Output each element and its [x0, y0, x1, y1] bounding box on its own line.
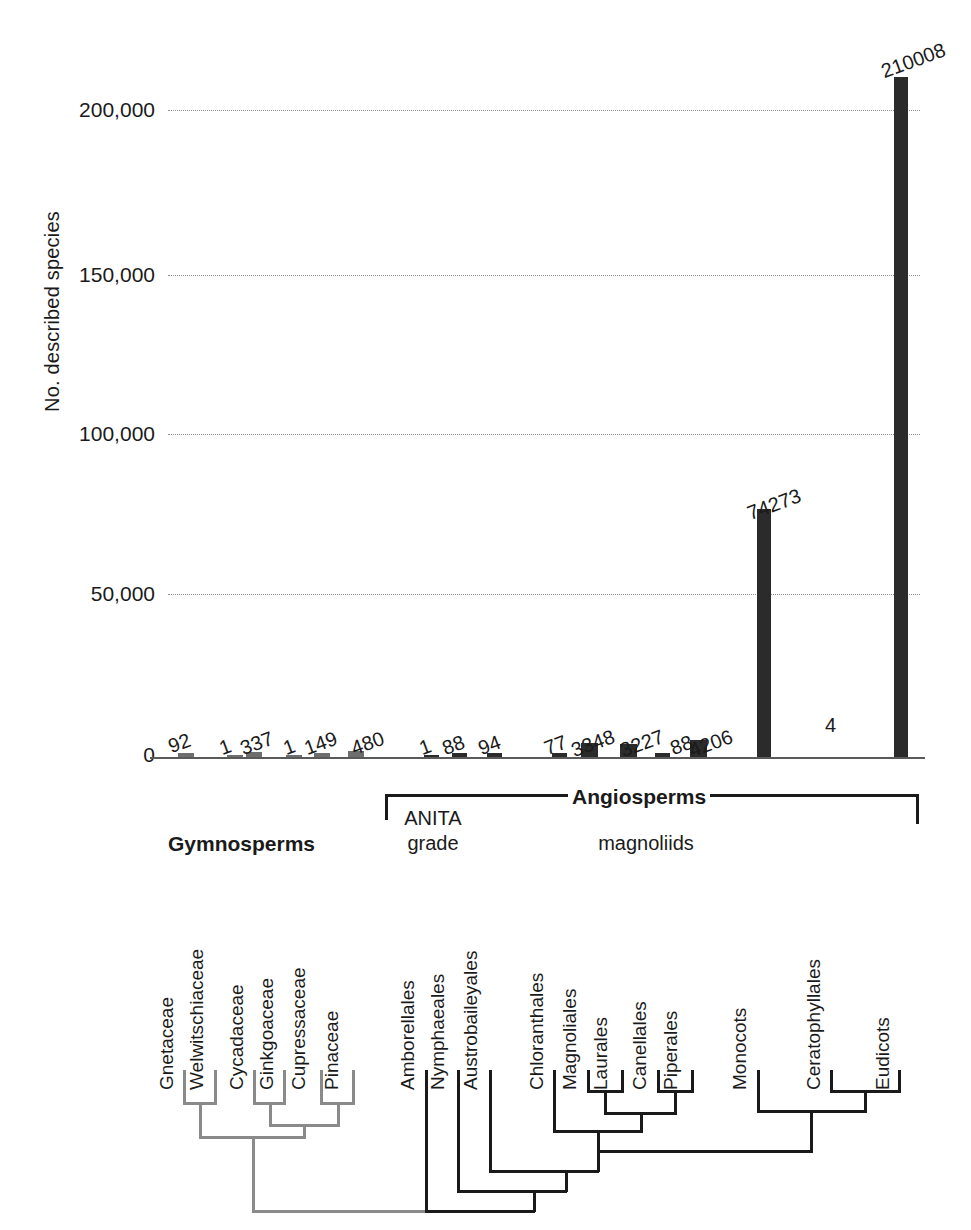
taxon-labels-layer: Gnetaceae Welwitschiaceae Cycadaceae Gin…	[0, 0, 971, 1075]
clade-tip-gnetaceae	[183, 1070, 186, 1104]
clade-tip-ceratophyllales	[830, 1070, 833, 1092]
chart-figure: No. described species 200,000 150,000 10…	[0, 0, 971, 1230]
clade-node-mesangiosperm-1	[457, 1190, 567, 1193]
clade-tip-laurales	[621, 1070, 624, 1092]
clade-stem-gymnosperms	[252, 1136, 255, 1212]
clade-tip-monocots	[757, 1070, 760, 1112]
clade-tip-nymphaeales	[457, 1070, 460, 1192]
clade-tip-pinaceae	[352, 1070, 355, 1104]
clade-stem-mesangiosperms	[565, 1170, 568, 1192]
clade-tip-cycadaceae	[253, 1070, 256, 1104]
clade-stem-cerato-eudicots	[864, 1090, 867, 1112]
clade-tip-amborellales	[425, 1070, 428, 1212]
clade-root-gymnosperm-branch	[252, 1210, 447, 1213]
clade-tip-welwitschiaceae	[214, 1070, 217, 1104]
clade-stem-magnoliales-laurales	[604, 1090, 607, 1114]
cladogram	[0, 1070, 971, 1230]
clade-tip-ginkgoaceae	[283, 1070, 286, 1104]
clade-stem-cycad-ginkgo	[269, 1102, 272, 1126]
clade-tip-magnoliales	[587, 1070, 590, 1092]
clade-root-angiosperms	[425, 1210, 535, 1213]
clade-tip-eudicots	[898, 1070, 901, 1092]
clade-stem-magnoliids	[640, 1112, 643, 1132]
taxon-label-welwitschiaceae: Welwitschiaceae	[186, 949, 208, 1090]
clade-tip-cupressaceae	[320, 1070, 323, 1104]
clade-tip-canellales	[657, 1070, 660, 1092]
clade-node-mesangiosperm-2	[489, 1170, 599, 1173]
clade-tip-austrobaileyales	[489, 1070, 492, 1172]
clade-stem-post-nymphaeales	[533, 1190, 536, 1212]
clade-stem-gnetales	[199, 1102, 202, 1136]
clade-node-mesangiosperms	[597, 1150, 813, 1153]
clade-stem-monocots-cerato-eudicots	[810, 1110, 813, 1152]
clade-tip-piperales	[691, 1070, 694, 1092]
clade-tip-chloranthales	[553, 1070, 556, 1132]
clade-stem-conifers	[337, 1102, 340, 1126]
clade-stem-canellales-piperales	[674, 1090, 677, 1114]
